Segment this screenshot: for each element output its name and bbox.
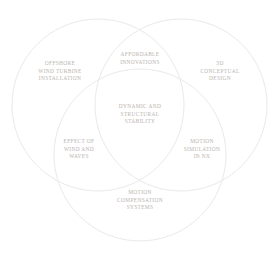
label-dynamic-and-structural-stability: DYNAMIC AND STRUCTURAL STABILITY xyxy=(98,103,182,126)
label-offshore-wind-turbine-installation: OFFSHORE WIND TURBINE INSTALLATION xyxy=(18,60,102,83)
label-motion-simulation-in-nx: MOTION SIMULATION IN NX xyxy=(166,138,238,161)
venn-diagram-canvas: OFFSHORE WIND TURBINE INSTALLATION 3D CO… xyxy=(0,0,279,256)
label-motion-compensation-systems: MOTION COMPENSATION SYSTEMS xyxy=(98,189,182,212)
label-affordable-innovations: AFFORDABLE INNOVATIONS xyxy=(98,51,182,66)
label-3d-conceptual-design: 3D CONCEPTUAL DESIGN xyxy=(178,60,262,83)
label-effect-of-wind-and-waves: EFFECT OF WIND AND WAVES xyxy=(43,138,115,161)
venn-circles-group xyxy=(0,0,279,256)
